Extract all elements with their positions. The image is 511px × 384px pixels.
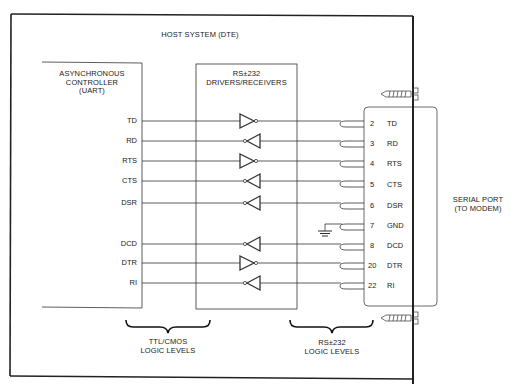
signal-lines xyxy=(142,114,342,290)
pin-number-7: 7 xyxy=(370,221,374,230)
uart-signal-td: TD xyxy=(100,116,137,125)
uart-block xyxy=(42,62,142,308)
pin-name-rts: RTS xyxy=(387,159,402,168)
brace-ttl-icon xyxy=(126,320,210,333)
pin-name-dsr: DSR xyxy=(387,201,403,210)
pin-name-dtr: DTR xyxy=(387,261,402,270)
uart-block-title: ASYNCHRONOUS CONTROLLER (UART) xyxy=(52,70,132,96)
pin-name-rd: RD xyxy=(387,139,398,148)
pin-name-ri: RI xyxy=(387,281,395,290)
pin-number-5: 5 xyxy=(370,180,374,189)
uart-signal-rd: RD xyxy=(100,136,137,145)
uart-signal-cts: CTS xyxy=(100,176,137,185)
ttl-logic-levels-label: TTL/CMOS LOGIC LEVELS xyxy=(128,338,208,355)
rs232-interface-diagram xyxy=(0,0,511,384)
uart-title-line3: (UART) xyxy=(52,87,132,96)
pin-name-td: TD xyxy=(387,119,397,128)
uart-signal-ri: RI xyxy=(100,278,137,287)
pin-number-20: 20 xyxy=(368,261,376,270)
serial-port-label: SERIAL PORT (TO MODEM) xyxy=(448,196,508,213)
host-system-title: HOST SYSTEM (DTE) xyxy=(140,31,260,40)
driver-title-line2: DRIVERS/RECEIVERS xyxy=(196,79,297,88)
pin-name-cts: CTS xyxy=(387,180,402,189)
pin-number-6: 6 xyxy=(370,201,374,210)
pin-name-gnd: GND xyxy=(387,221,404,230)
driver-block-title: RS±232 DRIVERS/RECEIVERS xyxy=(196,70,297,87)
pin-name-dcd: DCD xyxy=(387,241,403,250)
uart-signal-rts: RTS xyxy=(100,156,137,165)
brace-rs232-icon xyxy=(290,320,373,333)
ttl-label-line2: LOGIC LEVELS xyxy=(128,347,208,356)
uart-signal-dcd: DCD xyxy=(100,239,137,248)
connector-pin-sockets xyxy=(340,121,364,289)
serial-port-line2: (TO MODEM) xyxy=(448,205,508,214)
pin-number-22: 22 xyxy=(368,281,376,290)
uart-signal-dsr: DSR xyxy=(100,198,137,207)
rs232-label-line2: LOGIC LEVELS xyxy=(292,348,372,357)
rs232-logic-levels-label: RS±232 LOGIC LEVELS xyxy=(292,339,372,356)
pin-number-4: 4 xyxy=(370,159,374,168)
pin-number-3: 3 xyxy=(370,139,374,148)
uart-signal-dtr: DTR xyxy=(100,258,137,267)
driver-receiver-block xyxy=(196,64,297,309)
pin-number-2: 2 xyxy=(370,119,374,128)
pin-number-8: 8 xyxy=(370,241,374,250)
